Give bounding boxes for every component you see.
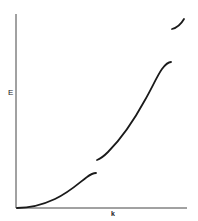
band-diagram <box>0 0 198 221</box>
y-axis-label: E <box>8 88 13 97</box>
band-2-curve <box>97 62 171 160</box>
band-1-curve <box>17 173 96 208</box>
x-axis-label: k <box>111 210 115 217</box>
band-3-curve <box>172 19 184 29</box>
